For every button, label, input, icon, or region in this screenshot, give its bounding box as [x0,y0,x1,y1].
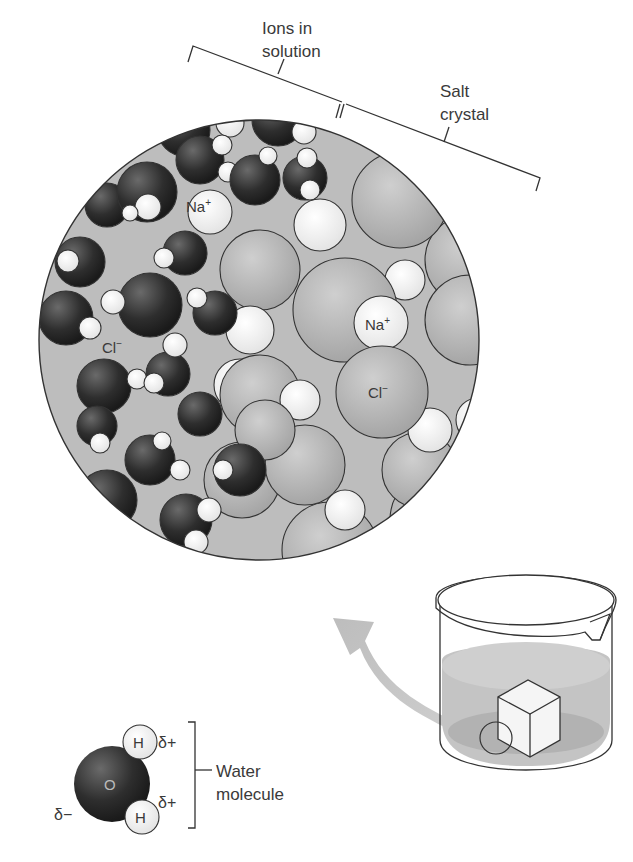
magnified-view: Na+ Cl− Na+ Cl− [39,94,515,598]
beaker-icon [436,575,616,770]
delta-plus-bottom: δ+ [158,794,176,811]
water-molecule-label-2: molecule [216,785,284,804]
hydrogen-top-label: H [133,734,144,751]
water-molecule-legend: O H H δ+ δ+ δ− Water molecule [54,722,284,834]
delta-plus-top: δ+ [158,734,176,751]
label-ions-in-solution-2: solution [262,42,321,61]
oxygen-label: O [104,776,116,793]
water-molecule-label-1: Water [216,762,261,781]
hydrogen-bottom-label: H [135,809,146,826]
label-salt-crystal-2: crystal [440,105,489,124]
label-salt-crystal-1: Salt [440,82,470,101]
salt-dissolution-diagram: Ions in solution Salt crystal [0,0,633,862]
delta-minus: δ− [54,806,72,823]
label-ions-in-solution-1: Ions in [262,19,312,38]
